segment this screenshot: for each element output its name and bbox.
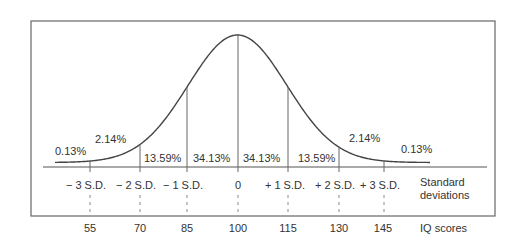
normal-distribution-diagram: 0.13% 2.14% 13.59% 34.13% 34.13% 13.59% … — [0, 0, 524, 247]
sd-dashed-ticks — [90, 195, 384, 216]
iq-label-85: 85 — [181, 222, 193, 234]
sd-label-minus1: − 1 S.D. — [163, 179, 203, 191]
pct-label-2sd-3sd: 2.14% — [349, 132, 380, 144]
iq-label-130: 130 — [330, 222, 348, 234]
pct-label-1sd-2sd: 13.59% — [298, 152, 336, 164]
sd-divider-lines — [90, 35, 384, 172]
pct-label-below-3sd: 0.13% — [55, 145, 86, 157]
pct-label-2sd-1sd: 13.59% — [144, 152, 182, 164]
sd-label-plus1: + 1 S.D. — [265, 179, 305, 191]
sd-label-plus3: + 3 S.D. — [360, 179, 400, 191]
iq-row-title: IQ scores — [420, 222, 468, 234]
sd-row-title-line2: deviations — [420, 189, 470, 201]
sd-label-zero: 0 — [235, 179, 241, 191]
iq-label-100: 100 — [229, 222, 247, 234]
pct-label-1sd-0: 34.13% — [193, 152, 231, 164]
iq-label-55: 55 — [84, 222, 96, 234]
iq-label-145: 145 — [374, 222, 392, 234]
sd-label-minus2: − 2 S.D. — [116, 179, 156, 191]
pct-label-3sd-2sd: 2.14% — [95, 133, 126, 145]
sd-row-title-line1: Standard — [420, 176, 465, 188]
pct-label-above-3sd: 0.13% — [401, 143, 432, 155]
pct-label-0-1sd: 34.13% — [243, 152, 281, 164]
sd-label-plus2: + 2 S.D. — [315, 179, 355, 191]
sd-label-minus3: − 3 S.D. — [66, 179, 106, 191]
iq-label-115: 115 — [279, 222, 297, 234]
iq-label-70: 70 — [134, 222, 146, 234]
